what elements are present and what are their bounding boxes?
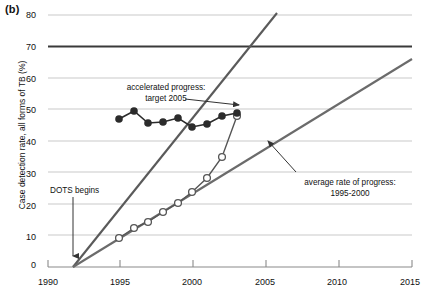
data-point-open	[160, 209, 167, 216]
data-point-filled	[188, 123, 196, 131]
annotation-arrow-accelerated	[185, 99, 239, 105]
data-point-open	[189, 189, 196, 196]
chart-figure: (b) Case detection rate, all forms of TB…	[0, 0, 432, 298]
axes	[48, 260, 412, 267]
data-point-filled	[203, 120, 211, 128]
data-point-filled	[159, 118, 167, 126]
data-point-open	[131, 225, 138, 232]
data-point-filled	[115, 115, 123, 123]
data-point-filled	[174, 114, 182, 122]
data-point-filled	[233, 109, 241, 117]
accelerated-progress-line	[73, 13, 277, 267]
data-point-open	[204, 175, 211, 182]
data-point-filled	[144, 119, 152, 127]
data-point-open	[219, 154, 226, 161]
annotation-arrow-average-rate	[268, 141, 296, 172]
data-point-filled	[218, 112, 226, 120]
target-series-markers	[115, 107, 241, 131]
plot-area	[0, 0, 432, 298]
data-point-open	[145, 219, 152, 226]
average-rate-line	[73, 59, 412, 267]
data-point-filled	[130, 107, 138, 115]
data-point-open	[116, 235, 123, 242]
data-point-open	[175, 200, 182, 207]
gridlines	[48, 15, 412, 235]
